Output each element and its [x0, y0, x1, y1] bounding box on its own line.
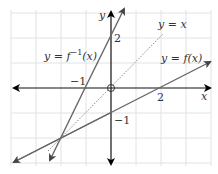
x-axis-label: x — [201, 90, 208, 103]
identity-label: y = x — [157, 18, 187, 31]
tick-y-minus-1: −1 — [114, 114, 130, 127]
y-axis-label: y — [98, 9, 106, 22]
tick-x-minus-1: −1 — [70, 75, 86, 88]
tick-y-2: 2 — [114, 32, 121, 45]
f-inverse-label: y = f−1(x) — [43, 48, 97, 63]
tick-x-2: 2 — [157, 91, 164, 104]
graph: y x y = x y = f(x) y = f−1(x) 2 −1 2 −1 — [0, 0, 218, 174]
f-label: y = f(x) — [160, 52, 202, 65]
